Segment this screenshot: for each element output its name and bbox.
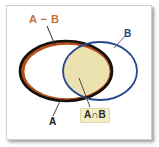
label-set-b: B — [124, 29, 131, 39]
label-a-intersect-b: A∩B — [80, 108, 110, 123]
label-a-minus-b: A − B — [29, 14, 60, 25]
venn-diagram-canvas — [0, 0, 159, 147]
venn-diagram-figure: A − B B A A∩B — [0, 0, 159, 147]
label-set-a: A — [49, 117, 56, 127]
